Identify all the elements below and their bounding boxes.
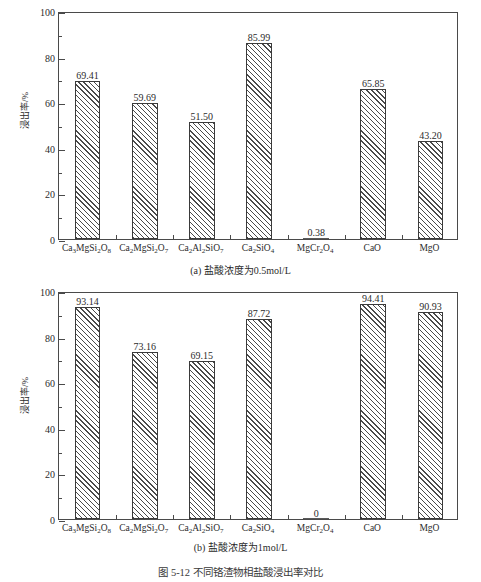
y-tick-label: 0 [50, 236, 55, 246]
bar-value-label: 90.93 [402, 301, 459, 312]
y-tick-label: 0 [50, 516, 55, 526]
bar-value-label: 94.41 [345, 293, 402, 304]
x-category-label: MgO [401, 242, 458, 254]
chart-panel-b: 浸出率/% 020406080100 93.1473.1669.1587.720… [0, 285, 481, 560]
y-tick-label: 60 [45, 379, 55, 389]
bar-value-label: 73.16 [116, 341, 173, 352]
plot-area-b: 020406080100 93.1473.1669.1587.72094.419… [58, 292, 458, 520]
x-tick [230, 235, 231, 239]
x-category-label: MgCr2O4 [287, 242, 344, 255]
bar [132, 103, 158, 239]
x-category-label: Ca3MgSi2O8 [58, 242, 115, 255]
x-tick [173, 235, 174, 239]
x-category-label: CaO [344, 522, 401, 534]
bar-slot [360, 293, 386, 519]
bar-value-label: 87.72 [230, 308, 287, 319]
bar-value-label: 51.50 [173, 111, 230, 122]
x-category-label: Ca2Al2SiO7 [172, 242, 229, 255]
x-tick [288, 515, 289, 519]
plot-area-a: 020406080100 69.4159.6951.5085.990.3865.… [58, 12, 458, 240]
bar [360, 304, 386, 519]
bar-slot [132, 13, 158, 239]
bar-slot [189, 13, 215, 239]
bar-slot [189, 293, 215, 519]
x-tick [402, 235, 403, 239]
x-tick [345, 515, 346, 519]
y-tick-label: 20 [45, 190, 55, 200]
x-tick [288, 235, 289, 239]
bar-series-b: 93.1473.1669.1587.72094.4190.93 [59, 293, 457, 519]
bar-value-label: 69.41 [59, 70, 116, 81]
x-category-label: Ca2MgSi2O7 [115, 522, 172, 535]
bar [189, 122, 215, 239]
bar [132, 352, 158, 519]
x-tick [345, 235, 346, 239]
bar [75, 307, 101, 519]
x-tick [116, 515, 117, 519]
bar-slot [418, 293, 444, 519]
chart-panel-a: 浸出率/% 020406080100 69.4159.6951.5085.990… [0, 0, 481, 290]
bar-value-label: 69.15 [173, 350, 230, 361]
bar-slot [75, 13, 101, 239]
bar-value-label: 85.99 [230, 32, 287, 43]
x-tick [402, 515, 403, 519]
bar-value-label: 43.20 [402, 130, 459, 141]
bar [360, 89, 386, 239]
y-tick-label: 40 [45, 425, 55, 435]
panel-caption-a: (a) 盐酸浓度为0.5mol/L [0, 264, 481, 277]
y-tick-label: 40 [45, 145, 55, 155]
x-tick [230, 515, 231, 519]
bar [75, 81, 101, 239]
y-tick-label: 60 [45, 99, 55, 109]
y-tick-label: 100 [40, 288, 55, 298]
bar-slot [246, 13, 272, 239]
x-category-label: CaO [344, 242, 401, 254]
bar-slot [303, 293, 329, 519]
y-axis-label-b: 浸出率/% [18, 366, 31, 426]
bar-value-label: 65.85 [345, 78, 402, 89]
y-axis-label-a: 浸出率/% [18, 81, 31, 141]
bar-slot [418, 13, 444, 239]
x-category-label: Ca2MgSi2O7 [115, 242, 172, 255]
bar-value-label: 0 [288, 508, 345, 519]
bar-slot [246, 293, 272, 519]
bar-value-label: 0.38 [288, 227, 345, 238]
bar-value-label: 59.69 [116, 92, 173, 103]
y-tick-label: 100 [40, 8, 55, 18]
bar-slot [303, 13, 329, 239]
x-category-label: Ca2SiO4 [229, 242, 286, 255]
bar-series-a: 69.4159.6951.5085.990.3865.8543.20 [59, 13, 457, 239]
bar-slot [360, 13, 386, 239]
bar-slot [75, 293, 101, 519]
bar [246, 319, 272, 519]
x-category-label: Ca2SiO4 [229, 522, 286, 535]
bar [418, 312, 444, 519]
bar [418, 141, 444, 239]
x-category-label: Ca3MgSi2O8 [58, 522, 115, 535]
y-tick-label: 80 [45, 334, 55, 344]
x-category-label: MgO [401, 522, 458, 534]
panel-caption-b: (b) 盐酸浓度为1mol/L [0, 541, 481, 554]
bar [189, 361, 215, 519]
bar [246, 43, 272, 239]
y-tick-label: 80 [45, 54, 55, 64]
x-tick [173, 515, 174, 519]
bar-value-label: 93.14 [59, 296, 116, 307]
figure-caption: 图 5-12 不同铬渣物相盐酸浸出率对比 [0, 566, 481, 582]
x-category-label: Ca2Al2SiO7 [172, 522, 229, 535]
x-tick [116, 235, 117, 239]
x-category-label: MgCr2O4 [287, 522, 344, 535]
bar-slot [132, 293, 158, 519]
y-tick-label: 20 [45, 470, 55, 480]
